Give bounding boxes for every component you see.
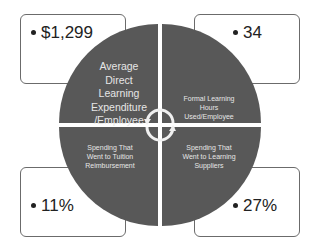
- bullet-icon: [31, 30, 36, 35]
- label-hours: Formal Learning Hours Used/Employee: [169, 94, 249, 121]
- label-line: Direct: [81, 74, 157, 88]
- label-line: Spending That: [169, 143, 249, 152]
- label-line: Formal Learning: [169, 94, 249, 103]
- label-tuition: Spending That Went to Tuition Reimbursem…: [69, 143, 151, 170]
- cycle-arrows-icon: [141, 106, 179, 144]
- label-line: Average: [81, 60, 157, 74]
- label-line: Learning: [81, 87, 157, 101]
- bullet-icon: [31, 203, 36, 208]
- label-line: Hours: [169, 103, 249, 112]
- label-line: Used/Employee: [169, 112, 249, 121]
- label-line: Suppliers: [169, 161, 249, 170]
- label-line: Spending That: [69, 143, 151, 152]
- label-line: Reimbursement: [69, 161, 151, 170]
- label-suppliers: Spending That Went to Learning Suppliers: [169, 143, 249, 170]
- label-line: Went to Tuition: [69, 152, 151, 161]
- label-line: Went to Learning: [169, 152, 249, 161]
